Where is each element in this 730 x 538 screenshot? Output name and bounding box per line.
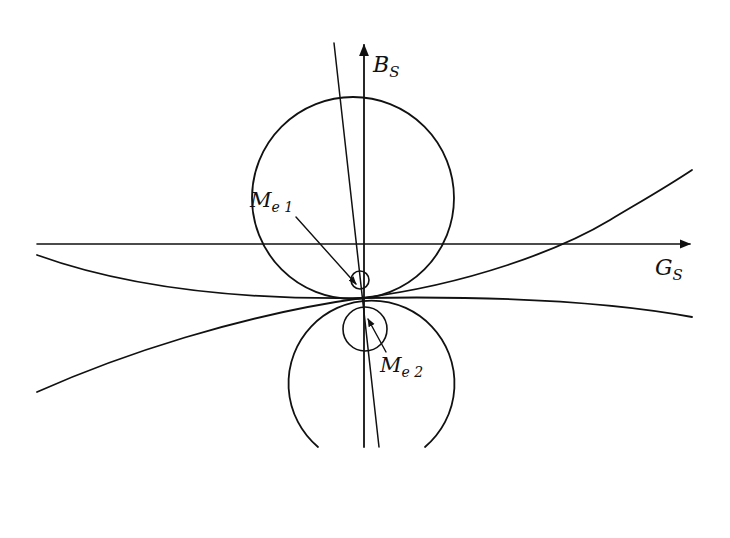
me1-label: Me 1 (249, 188, 293, 215)
me1-arrow (296, 217, 356, 284)
g-axis-label: GS (655, 255, 683, 284)
b-axis-label: BS (372, 52, 399, 81)
upper-circle (252, 97, 454, 299)
me2-circle (343, 307, 387, 351)
slanted-line (334, 43, 379, 447)
smith-chart-diagram: BS GS Me 1 Me 2 (0, 0, 730, 538)
diagram-canvas: BS GS Me 1 Me 2 (0, 0, 730, 538)
me2-label: Me 2 (379, 353, 423, 380)
